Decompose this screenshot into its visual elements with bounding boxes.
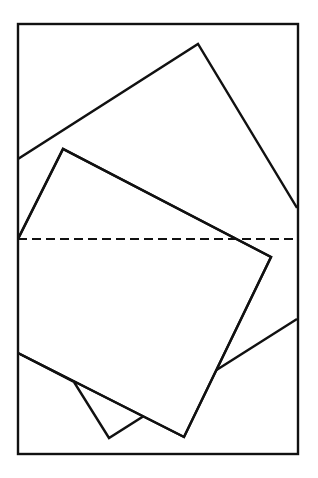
diagram-canvas (0, 0, 318, 478)
diagram-svg (0, 0, 318, 478)
